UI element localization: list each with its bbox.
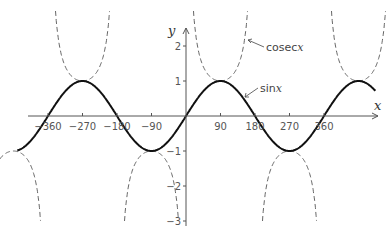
x-tick-label: −90	[141, 121, 162, 132]
y-tick-label: −3	[166, 216, 181, 227]
y-tick-label: −2	[166, 181, 181, 192]
cosec-arrow	[248, 40, 264, 47]
x-tick-label: 90	[214, 121, 227, 132]
x-tick-label: −180	[103, 121, 130, 132]
cosec-annotation: cosecx	[248, 39, 304, 54]
tick-labels: −360−270−180−9090180270360−3−2−112	[34, 41, 333, 227]
chart: −360−270−180−9090180270360−3−2−112 x y c…	[0, 0, 392, 236]
y-tick-label: 2	[175, 41, 181, 52]
sin-annotation: sinx	[245, 82, 283, 97]
cosec-branch	[332, 11, 386, 81]
y-tick-label: −1	[166, 146, 181, 157]
cosec-branch	[194, 11, 248, 81]
cosec-branch	[0, 151, 41, 221]
cosec-branch	[263, 151, 317, 221]
sin-arrow	[245, 88, 258, 97]
sin-label: sinx	[260, 82, 283, 95]
x-tick-label: 180	[245, 121, 264, 132]
x-tick-label: −360	[34, 121, 61, 132]
x-tick-label: −270	[69, 121, 96, 132]
x-tick-label: 360	[314, 121, 333, 132]
cosec-branch	[56, 11, 110, 81]
x-axis-label: x	[374, 98, 382, 113]
y-axis-label: y	[167, 23, 176, 38]
cosec-label: cosecx	[266, 41, 304, 54]
x-tick-label: 270	[280, 121, 299, 132]
y-tick-label: 1	[175, 76, 181, 87]
